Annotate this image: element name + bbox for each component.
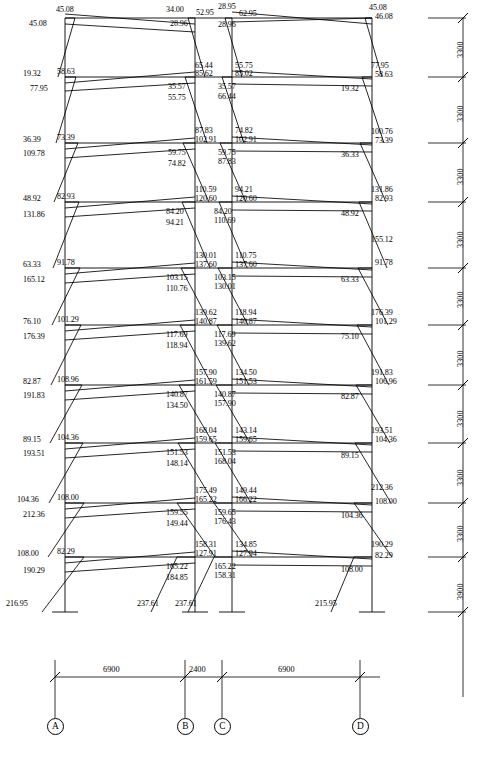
label-L2-A-below: 212.36 (23, 511, 45, 520)
label-L5-B-left-dn: 118.94 (166, 342, 187, 351)
label-L3-A-below: 193.51 (23, 450, 45, 459)
label-L3-B-left-up: 151.53 (166, 449, 188, 458)
grid-bubble-C[interactable]: C (214, 718, 231, 735)
label-L5-A-out: 76.10 (23, 318, 41, 327)
label-L7-B-lr: 120.60 (195, 195, 217, 204)
label-L2-C-lr: 166.22 (235, 496, 257, 505)
label-L8-C-lr: 102.91 (235, 136, 257, 145)
label-L1-A-below: 190.29 (23, 567, 45, 576)
label-L8-A-in: 73.39 (57, 134, 75, 143)
grid-bubble-D[interactable]: D (352, 718, 369, 735)
dim-storey-2: 3300 (456, 525, 465, 542)
label-L4-C-ll: 157.90 (214, 400, 236, 409)
label-L3-B-left-dn: 148.14 (166, 460, 188, 469)
label-L5-B-lr: 140.87 (195, 318, 217, 327)
label-roof-B-top-in: 34.00 (166, 6, 184, 15)
label-L9-D-lr: 58.63 (375, 71, 393, 80)
dim-bay-BC: 2400 (189, 665, 206, 674)
label-L5-B-left-up: 117.69 (166, 331, 187, 340)
dim-bay-CD: 6900 (278, 665, 295, 674)
label-L9-B-left-up: 35.57 (168, 83, 186, 92)
dim-storey-3: 3300 (456, 469, 465, 486)
label-L7-D-in: 48.92 (341, 210, 359, 219)
label-base-D: 215.95 (315, 600, 337, 609)
label-L2-D-lr: 108.00 (375, 498, 397, 507)
label-L2-D-ur: 212.36 (371, 484, 393, 493)
label-roof-C-top-in3: 28.96 (218, 21, 236, 30)
label-L4-B-left-up: 140.87 (166, 391, 188, 400)
label-L1-D-in: 108.00 (341, 566, 363, 575)
label-L6-D-lr: 91.78 (375, 259, 393, 268)
label-roof-A-top-in: 45.08 (29, 20, 47, 29)
label-L5-A-in: 101.29 (57, 316, 79, 325)
label-L8-B-lr: 102.91 (195, 136, 217, 145)
label-L3-C-ll: 168.04 (214, 458, 236, 467)
label-L3-A-out: 89.15 (23, 436, 41, 445)
label-roof-D-top-out: 46.08 (375, 13, 393, 22)
label-L3-B-lr: 159.65 (195, 436, 217, 445)
grid-bubble-A[interactable]: A (47, 718, 64, 735)
dim-storey-8: 3300 (456, 168, 465, 185)
label-L7-A-out: 48.92 (23, 195, 41, 204)
label-L8-A-below: 109.78 (23, 150, 45, 159)
label-L9-A-out: 19.32 (23, 70, 41, 79)
label-L3-D-lr: 104.36 (375, 436, 397, 445)
label-L1-B-left-dn: 184.85 (166, 574, 188, 583)
label-L1-A-out: 108.00 (17, 550, 39, 559)
label-L4-C-lr: 151.53 (235, 378, 257, 387)
label-L5-D-lr: 101.29 (375, 318, 397, 327)
label-L4-B-lr: 161.59 (195, 378, 217, 387)
label-L1-D-ur: 190.29 (371, 541, 393, 550)
label-L8-A-out: 36.39 (23, 136, 41, 145)
label-L5-C-ll: 139.62 (214, 340, 236, 349)
label-L8-D-lr: 73.39 (375, 137, 393, 146)
label-L2-C-ll: 176.43 (214, 518, 236, 527)
label-L4-A-below: 191.83 (23, 392, 45, 401)
label-roof-C-top-out: 52.95 (196, 9, 214, 18)
dim-storey-10: 3300 (456, 41, 465, 58)
label-L9-B-lr: 85.62 (195, 70, 213, 79)
dim-bay-AB: 6900 (103, 665, 120, 674)
label-L6-B-left-up: 103.15 (166, 274, 188, 283)
dim-storey-9: 3300 (456, 105, 465, 122)
label-L7-D-lr: 82.93 (375, 195, 393, 204)
label-L9-D-in: 19.32 (341, 85, 359, 94)
label-L1-C-ll: 158.31 (214, 572, 236, 581)
label-roof-C-top-in2: 28.95 (218, 3, 236, 12)
grid-bubble-B[interactable]: B (177, 718, 194, 735)
label-L6-A-in: 91.78 (57, 259, 75, 268)
label-L9-A-in: 58.63 (57, 68, 75, 77)
dim-storey-7: 3300 (456, 231, 465, 248)
label-L6-B-left-dn: 110.76 (166, 285, 187, 294)
label-L3-C-lr: 159.65 (235, 436, 257, 445)
label-L2-D-in: 104.36 (341, 512, 363, 521)
horizontal-dimension-chain (50, 660, 380, 718)
label-L8-D-in: 36.33 (341, 151, 359, 160)
label-L8-C-ll: 87.83 (218, 158, 236, 167)
frame-diagram-canvas: 45.08 45.08 34.00 28.96 52.95 28.95 62.9… (0, 0, 481, 760)
label-roof-C-top-in: 62.95 (239, 10, 257, 19)
label-L3-A-in: 104.36 (57, 434, 79, 443)
label-L1-C-lr: 127.94 (235, 550, 257, 559)
label-L7-C-ll: 110.69 (214, 217, 235, 226)
label-L4-A-in: 108.96 (57, 376, 79, 385)
label-L9-A-below: 77.95 (30, 85, 48, 94)
label-L2-B-left-dn: 149.44 (166, 520, 188, 529)
label-L4-B-left-dn: 134.50 (166, 402, 188, 411)
label-roof-A-top-out: 45.08 (56, 6, 74, 15)
label-L9-B-left-dn: 55.75 (168, 94, 186, 103)
label-L6-D-in: 63.33 (341, 276, 359, 285)
label-L1-A-in: 82.29 (57, 548, 75, 557)
label-L5-A-below: 176.39 (23, 333, 45, 342)
label-L2-B-left-up: 159.55 (166, 509, 188, 518)
label-L1-D-lr: 82.29 (375, 552, 393, 561)
label-L2-B-lr: 165.22 (195, 496, 217, 505)
label-L7-A-in: 82.93 (57, 193, 75, 202)
dim-storey-4: 3300 (456, 410, 465, 427)
label-L9-C-lr: 85.02 (235, 70, 253, 79)
dim-storey-5: 3300 (456, 350, 465, 367)
label-base-B-left: 237.61 (137, 600, 159, 609)
dim-storey-6: 3300 (456, 291, 465, 308)
dim-storey-1: 3900 (456, 583, 465, 600)
label-L7-B-left-dn: 94.21 (166, 219, 184, 228)
